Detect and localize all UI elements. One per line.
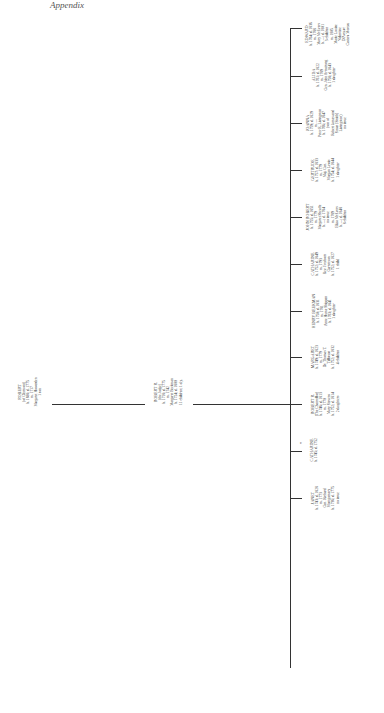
branch-gertrude [290, 170, 302, 171]
branch-catharine-1 [290, 451, 302, 452]
branch-alida [290, 76, 302, 77]
branch-joanna [290, 123, 302, 124]
branch-robert-chancellor [290, 404, 302, 405]
node-robert-the-judge: ROBERT R. (the Judge) b. 1718; d. 1775 m… [154, 364, 182, 420]
node-robert-the-chancellor: ROBERT R. (The Chancellor) b. 1746; d. 1… [311, 375, 339, 433]
branch-margaret [290, 357, 302, 358]
node-root-robert: ROBERT (of Clermont) b. 1688; d. 1775 m.… [18, 368, 42, 416]
node-janet: JANET b. 1743; d. 1828 m. 1773 Gen. Rich… [311, 469, 339, 527]
margin-mark: c [300, 440, 302, 445]
branch-catharine-2 [290, 264, 302, 265]
node-catharine-d-y: CATHARINE b. 1745; d. 1752 [310, 430, 322, 470]
page-header: Appendix [50, 0, 84, 10]
root-connector [52, 404, 145, 405]
branch-henry-beekman [290, 311, 302, 312]
children-trunk [290, 28, 291, 668]
branch-janet [290, 498, 302, 499]
middle-connector [193, 404, 290, 405]
branch-john-robert [290, 217, 302, 218]
branch-edward [290, 28, 302, 29]
